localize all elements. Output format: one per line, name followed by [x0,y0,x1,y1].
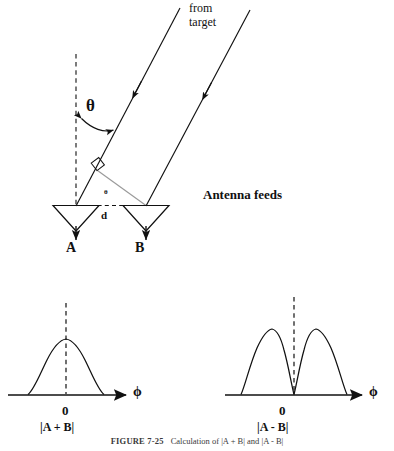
feed-a-label: A [66,241,76,255]
incoming-ray-b [146,10,250,206]
ray-diagram [53,8,250,240]
incoming-label-from: from [189,2,212,14]
ray-b-direction-arrow-icon [204,83,212,98]
difference-origin-tick-label: 0 [279,404,286,417]
difference-x-axis-label: ϕ [369,385,378,399]
theta-angle-label: θ [86,97,95,114]
baseline-distance-label: d [101,210,107,221]
difference-right-lobe-curve [294,329,347,395]
ray-a-direction-arrow-icon [134,81,142,96]
plot-sum [8,303,126,395]
sum-origin-tick-label: 0 [62,404,69,417]
theta-angle-label-small: θ [104,189,108,196]
difference-plot-title: |A - B| [257,421,288,433]
feed-b-label: B [135,241,144,255]
figure-caption-number: FIGURE 7-25 [111,436,164,446]
difference-left-lobe-curve [241,329,294,395]
figure-container: from target θ θ d A B Antenna feeds ϕ 0 … [0,0,394,451]
figure-caption: FIGURE 7-25Calculation of |A + B| and |A… [0,437,394,446]
sum-plot-title: |A + B| [40,421,74,433]
figure-drawing [0,0,394,451]
antenna-feeds-label: Antenna feeds [203,188,282,201]
figure-caption-text: Calculation of |A + B| and |A - B| [164,436,284,446]
incoming-label-target: target [189,16,216,28]
theta-angle-arc-icon [82,119,114,131]
plot-difference [225,297,362,395]
sum-x-axis-label: ϕ [133,385,142,399]
